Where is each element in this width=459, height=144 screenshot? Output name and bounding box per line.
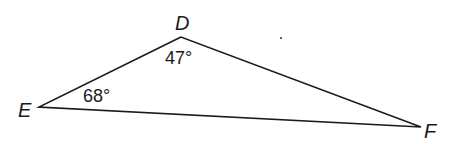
- vertex-label-f: F: [424, 120, 438, 142]
- vertex-label-e: E: [18, 99, 32, 121]
- triangle-diagram: D E F 47° 68°: [0, 0, 459, 144]
- stray-dot: [280, 37, 282, 39]
- angle-label-d: 47°: [165, 48, 192, 68]
- triangle-def: [39, 37, 421, 127]
- angle-label-e: 68°: [83, 86, 110, 106]
- vertex-label-d: D: [175, 12, 189, 34]
